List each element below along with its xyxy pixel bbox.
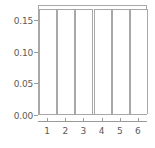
bar: [112, 9, 130, 114]
x-tick-label: 2: [62, 126, 68, 136]
histogram-figure: 0.000.050.100.15 123456: [0, 0, 155, 148]
y-tick-label: 0.00: [14, 111, 33, 120]
x-axis: 123456: [38, 118, 147, 148]
x-tick-mark: [65, 118, 66, 122]
bar: [94, 9, 112, 114]
x-tick-mark: [47, 118, 48, 122]
x-axis-spine: [38, 121, 147, 122]
plot-area: [38, 5, 147, 115]
x-tick-mark: [102, 118, 103, 122]
x-tick-mark: [83, 118, 84, 122]
x-tick-label: 6: [135, 126, 141, 136]
y-tick-label: 0.05: [14, 80, 33, 89]
y-tick-label: 0.15: [14, 17, 33, 26]
bar-series: [39, 6, 146, 114]
x-tick-label: 3: [81, 126, 87, 136]
y-tick-label: 0.10: [14, 48, 33, 57]
bar: [130, 9, 148, 114]
bar: [75, 9, 93, 114]
y-axis: 0.000.050.100.15: [0, 0, 38, 148]
bar: [57, 9, 75, 114]
x-tick-label: 4: [99, 126, 105, 136]
x-tick-mark: [120, 118, 121, 122]
bar: [39, 9, 57, 114]
x-tick-label: 1: [44, 126, 50, 136]
x-tick-mark: [138, 118, 139, 122]
x-tick-label: 5: [117, 126, 123, 136]
